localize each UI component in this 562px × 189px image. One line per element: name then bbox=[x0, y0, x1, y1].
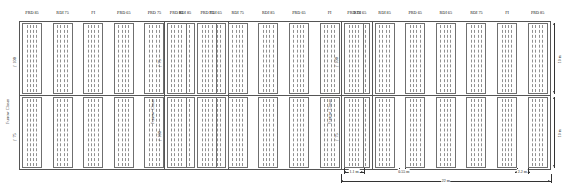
crop-row-line bbox=[118, 25, 119, 92]
plot-crop-rows bbox=[529, 24, 547, 93]
crop-row-line bbox=[149, 25, 150, 92]
crop-row-line bbox=[352, 99, 353, 166]
crop-row-line bbox=[263, 99, 264, 166]
plot-prd85[interactable] bbox=[528, 23, 548, 94]
plot-crop-rows bbox=[290, 98, 308, 167]
plot-prd65[interactable] bbox=[405, 23, 425, 94]
dim-arrow-right bbox=[528, 171, 530, 173]
plot-prd65[interactable] bbox=[289, 97, 309, 168]
plot-crop-rows bbox=[437, 98, 455, 167]
dim-label: 1.1 m bbox=[349, 169, 360, 174]
crop-row-line bbox=[444, 99, 445, 166]
plot-rdi75[interactable] bbox=[466, 23, 486, 94]
plot-rdi75[interactable] bbox=[466, 97, 486, 168]
crop-row-line bbox=[511, 99, 512, 166]
column-header-treatment: FI bbox=[320, 10, 340, 15]
plot-prd85[interactable] bbox=[22, 23, 42, 94]
crop-row-line bbox=[481, 25, 482, 92]
plot-crop-rows bbox=[229, 98, 247, 167]
plot-prd65[interactable] bbox=[405, 97, 425, 168]
plot-crop-rows bbox=[345, 24, 363, 93]
plot-rdi85[interactable] bbox=[258, 97, 278, 168]
dim-arrow-up bbox=[553, 97, 555, 99]
crop-row-line bbox=[232, 99, 233, 166]
closer-setting-label: (' 75 bbox=[334, 133, 339, 141]
dim-arrow-down bbox=[553, 165, 555, 167]
plot-fi[interactable] bbox=[83, 97, 103, 168]
dim-arrow-left bbox=[344, 171, 346, 173]
crop-row-line bbox=[297, 25, 298, 92]
crop-row-line bbox=[269, 99, 270, 166]
plot-prd75[interactable] bbox=[197, 97, 217, 168]
crop-row-line bbox=[471, 25, 472, 92]
crop-row-line bbox=[293, 25, 294, 92]
plot-crop-rows bbox=[259, 98, 277, 167]
crop-row-line bbox=[324, 25, 325, 92]
crop-row-line bbox=[27, 25, 28, 92]
crop-row-line bbox=[508, 99, 509, 166]
closer-setting-label: (' 100 bbox=[334, 57, 339, 67]
column-header-treatment: PRD 85 bbox=[528, 10, 548, 15]
crop-row-line bbox=[212, 25, 213, 92]
column-header-treatment: PRD 75 bbox=[344, 10, 364, 15]
plot-crop-rows bbox=[168, 98, 186, 167]
crop-row-line bbox=[535, 99, 536, 166]
crop-row-line bbox=[64, 99, 65, 166]
crop-row-line bbox=[511, 25, 512, 92]
crop-row-line bbox=[474, 99, 475, 166]
crop-row-line bbox=[212, 99, 213, 166]
plot-rdi75[interactable] bbox=[228, 23, 248, 94]
plot-rdi85[interactable] bbox=[375, 23, 395, 94]
plot-fi[interactable] bbox=[83, 23, 103, 94]
plot-rdi65[interactable] bbox=[436, 97, 456, 168]
crop-row-line bbox=[128, 25, 129, 92]
plot-prd85[interactable] bbox=[167, 23, 187, 94]
plot-rdi75[interactable] bbox=[53, 97, 73, 168]
plot-fi[interactable] bbox=[497, 97, 517, 168]
plot-fi[interactable] bbox=[497, 23, 517, 94]
plot-prd75[interactable] bbox=[344, 23, 364, 94]
dim-arrow-left bbox=[341, 180, 343, 182]
plot-crop-rows bbox=[115, 24, 133, 93]
crop-row-line bbox=[205, 25, 206, 92]
plot-prd75[interactable] bbox=[197, 23, 217, 94]
plot-prd85[interactable] bbox=[167, 97, 187, 168]
plot-prd65[interactable] bbox=[289, 23, 309, 94]
plot-prd85[interactable] bbox=[528, 97, 548, 168]
crop-row-line bbox=[542, 99, 543, 166]
crop-row-line bbox=[324, 99, 325, 166]
crop-row-line bbox=[505, 99, 506, 166]
crop-row-line bbox=[416, 99, 417, 166]
furrow-closer-label: Furrow Closer bbox=[5, 99, 10, 124]
crop-row-line bbox=[300, 25, 301, 92]
plot-crop-rows bbox=[23, 24, 41, 93]
crop-row-line bbox=[542, 25, 543, 92]
crop-row-line bbox=[57, 25, 58, 92]
crop-row-line bbox=[386, 99, 387, 166]
crop-row-line bbox=[125, 25, 126, 92]
plot-prd85[interactable] bbox=[22, 97, 42, 168]
plot-crop-rows bbox=[23, 98, 41, 167]
plot-crop-rows bbox=[345, 98, 363, 167]
plot-prd65[interactable] bbox=[114, 23, 134, 94]
plot-crop-rows bbox=[229, 24, 247, 93]
plot-crop-rows bbox=[168, 24, 186, 93]
plot-rdi75[interactable] bbox=[228, 97, 248, 168]
crop-row-line bbox=[532, 25, 533, 92]
dim-arrow-right bbox=[548, 180, 550, 182]
crop-row-line bbox=[67, 99, 68, 166]
dim-arrow-up bbox=[553, 23, 555, 25]
plot-rdi85[interactable] bbox=[258, 23, 278, 94]
plot-prd65[interactable] bbox=[114, 97, 134, 168]
crop-row-line bbox=[57, 99, 58, 166]
crop-row-line bbox=[178, 99, 179, 166]
plot-rdi75[interactable] bbox=[53, 23, 73, 94]
crop-row-line bbox=[91, 99, 92, 166]
closer-setting-label: (' 75 bbox=[12, 133, 17, 141]
plot-crop-rows bbox=[406, 98, 424, 167]
crop-row-line bbox=[535, 25, 536, 92]
plot-crop-rows bbox=[84, 98, 102, 167]
plot-rdi65[interactable] bbox=[436, 23, 456, 94]
plot-prd75[interactable] bbox=[344, 97, 364, 168]
plot-rdi85[interactable] bbox=[375, 97, 395, 168]
